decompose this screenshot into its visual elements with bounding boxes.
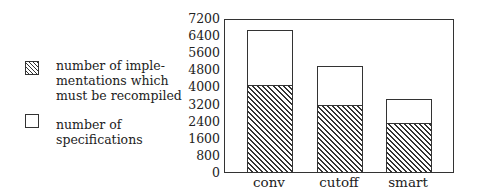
y-tick-label: 6400 xyxy=(188,29,220,42)
bar-smart xyxy=(386,20,432,172)
y-tick-label: 0 xyxy=(212,166,220,179)
y-tick-label: 3200 xyxy=(188,98,220,111)
y-tick-label: 7200 xyxy=(188,12,220,25)
legend-line: specifications xyxy=(56,132,143,147)
y-tick-label: 4800 xyxy=(188,63,220,76)
legend-swatch-implementations xyxy=(25,61,39,75)
y-tick-label: 1600 xyxy=(188,132,220,145)
y-tick-label: 5600 xyxy=(188,46,220,59)
legend-swatch-specifications xyxy=(25,114,39,128)
legend-line: number of xyxy=(56,117,143,132)
y-tick-label: 4000 xyxy=(188,80,220,93)
legend-line: mentations which xyxy=(56,73,186,88)
y-axis: 080016002400320040004800560064007200 xyxy=(170,0,220,196)
bar-conv xyxy=(247,20,293,172)
plot-area xyxy=(224,19,454,173)
bar-segment-implementations xyxy=(317,105,363,173)
legend-line: must be recompiled xyxy=(56,88,186,103)
x-tick-label-conv: conv xyxy=(239,174,299,190)
legend-line: number of imple- xyxy=(56,58,186,73)
bar-segment-implementations xyxy=(386,123,432,173)
bar-segment-implementations xyxy=(247,85,293,173)
x-tick-label-cutoff: cutoff xyxy=(309,174,369,190)
legend-label-specifications: number of specifications xyxy=(56,117,143,147)
legend-label-implementations: number of imple- mentations which must b… xyxy=(56,58,186,103)
y-tick-label: 800 xyxy=(196,149,220,162)
x-tick-label-smart: smart xyxy=(378,174,438,190)
bar-cutoff xyxy=(317,20,363,172)
y-tick-label: 2400 xyxy=(188,115,220,128)
